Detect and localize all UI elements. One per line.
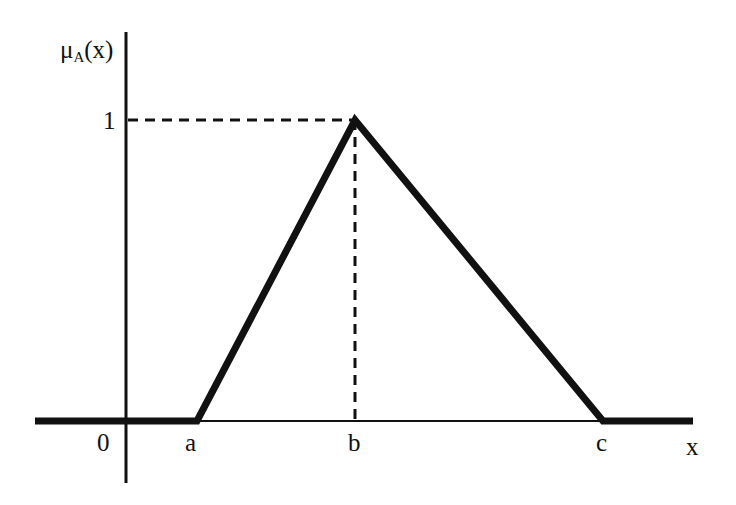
- membership-function-diagram: μA(x) 1 0 a b c x: [0, 0, 736, 505]
- y-axis-label: μA(x): [60, 36, 113, 65]
- x-point-label-c: c: [596, 429, 607, 456]
- x-axis-label: x: [686, 433, 699, 460]
- x-point-label-a: a: [185, 429, 196, 456]
- membership-function-curve: [35, 120, 693, 421]
- x-point-label-b: b: [348, 429, 361, 456]
- origin-label: 0: [97, 429, 110, 456]
- y-tick-label-1: 1: [103, 107, 116, 134]
